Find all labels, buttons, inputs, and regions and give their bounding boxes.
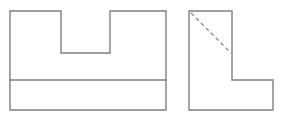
side-view-fill [189, 11, 273, 110]
side-view [189, 11, 273, 110]
front-view [10, 11, 166, 110]
front-view-fill [10, 11, 166, 110]
drawing-sheet [0, 0, 285, 119]
drawing-canvas [0, 0, 285, 119]
